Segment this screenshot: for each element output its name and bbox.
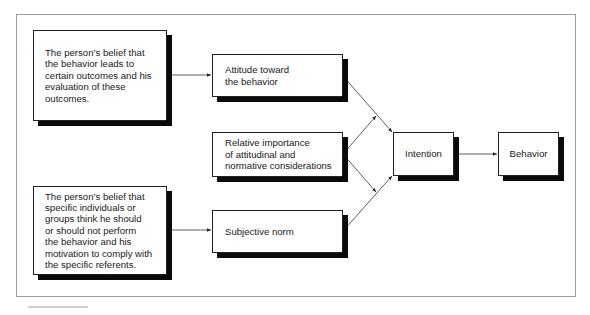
node-label: Intention <box>405 148 442 159</box>
node-label: Subjective norm <box>225 226 294 237</box>
arrow-relative-to-upper <box>343 116 376 154</box>
node-label: Behavior <box>510 148 548 159</box>
node-attitude: Attitude toward the behavior <box>212 54 343 97</box>
arrow-attitude-to-intention <box>343 76 392 132</box>
node-label: The person’s belief that specific indivi… <box>45 191 152 271</box>
arrow-norm-to-intention <box>343 176 392 231</box>
arrow-relative-to-lower <box>343 154 376 192</box>
node-behavior: Behavior <box>498 132 559 176</box>
node-label: Attitude toward the behavior <box>225 64 289 87</box>
caption-mark <box>28 306 88 308</box>
node-belief-outcomes: The person’s belief that the behavior le… <box>33 30 167 121</box>
node-subjective-norm: Subjective norm <box>212 210 343 253</box>
node-intention: Intention <box>393 132 454 176</box>
node-belief-referents: The person’s belief that specific indivi… <box>33 186 167 275</box>
node-label: The person’s belief that the behavior le… <box>45 47 152 104</box>
node-relative-importance: Relative importance of attitudinal and n… <box>212 132 343 177</box>
node-label: Relative importance of attitudinal and n… <box>225 137 332 171</box>
